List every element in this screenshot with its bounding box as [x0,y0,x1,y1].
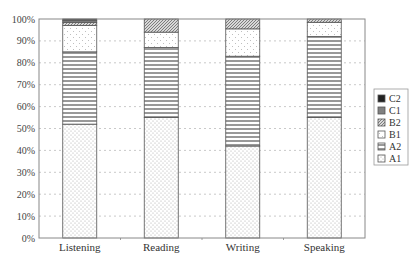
legend: C2C1B2B1A2A1 [374,89,408,165]
legend-swatch-icon [378,95,385,102]
segment-a1 [307,118,341,238]
segment-b1 [307,22,341,36]
x-tick-label: Listening [59,241,101,253]
legend-item-c1: C1 [378,105,401,116]
bar-reading [144,19,178,238]
segment-b1 [144,32,178,47]
segment-a1 [63,124,97,238]
legend-label: C2 [389,93,401,104]
segment-a2 [144,47,178,117]
y-tick-label: 70% [17,79,35,90]
segment-b1 [63,26,97,52]
x-axis: ListeningReadingWritingSpeaking [59,238,345,253]
segment-a1 [226,146,260,238]
legend-label: A1 [389,153,401,164]
segment-b1 [226,29,260,56]
x-tick-label: Speaking [304,241,345,253]
legend-label: C1 [389,105,401,116]
legend-swatch-icon [378,131,385,138]
legend-swatch-icon [378,119,385,126]
bar-listening [63,19,97,238]
legend-item-b2: B2 [378,117,401,128]
segment-a2 [226,56,260,146]
y-tick-label: 0% [22,233,35,244]
y-tick-label: 30% [17,167,35,178]
segment-b2 [144,19,178,32]
y-tick-label: 80% [17,57,35,68]
segment-b2 [63,22,97,25]
x-tick-label: Writing [226,241,260,253]
y-tick-label: 40% [17,145,35,156]
legend-label: B2 [389,117,401,128]
y-tick-label: 100% [12,14,35,25]
bar-writing [226,19,260,238]
segment-b2 [226,19,260,29]
segment-a1 [144,118,178,238]
y-tick-label: 60% [17,101,35,112]
y-axis: 0%10%20%30%40%50%60%70%80%90%100% [12,14,35,244]
y-tick-label: 50% [17,123,35,134]
stacked-bar-chart: 0%10%20%30%40%50%60%70%80%90%100% Listen… [0,0,418,263]
y-tick-label: 20% [17,189,35,200]
bar-speaking [307,19,341,238]
legend-label: A2 [389,141,401,152]
legend-label: B1 [389,129,401,140]
y-tick-label: 90% [17,35,35,46]
segment-a2 [307,37,341,118]
x-tick-label: Reading [143,241,180,253]
legend-item-a1: A1 [378,153,401,164]
legend-item-b1: B1 [378,129,401,140]
legend-swatch-icon [378,107,385,114]
segment-a2 [63,52,97,124]
legend-item-c2: C2 [378,93,401,104]
legend-swatch-icon [378,143,385,150]
legend-item-a2: A2 [378,141,401,152]
y-tick-label: 10% [17,211,35,222]
legend-swatch-icon [378,155,385,162]
